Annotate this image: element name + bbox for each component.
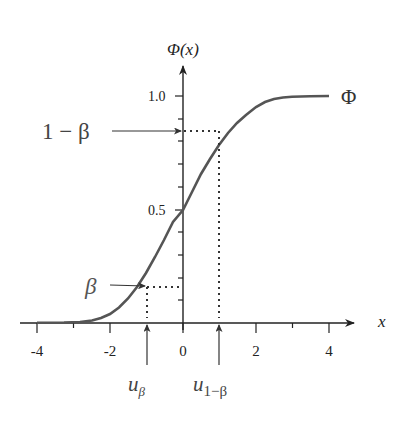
x-tick-m4: -4: [31, 343, 44, 359]
x-tick-m2: -2: [104, 343, 117, 359]
u-1mb-label: u1−β: [193, 372, 227, 399]
cdf-chart: Φ(x) x Φ 1 − β β 1.0 0.5 -4 -2 0 2 4 uβ …: [0, 0, 412, 427]
tick-label-1-0: 1.0: [148, 89, 166, 104]
y-axis-label: Φ(x): [167, 40, 199, 59]
x-tick-labels: -4 -2 0 2 4: [31, 343, 334, 359]
x-axis-label: x: [377, 312, 386, 331]
u-beta-label: uβ: [128, 372, 146, 399]
curve-label: Φ: [341, 85, 356, 109]
tick-label-0-5: 0.5: [148, 203, 166, 218]
x-ticks: [37, 323, 329, 333]
x-tick-2: 2: [252, 343, 260, 359]
x-tick-0: 0: [179, 343, 187, 359]
x-tick-4: 4: [325, 343, 333, 359]
beta-arrow: [110, 285, 145, 286]
beta-label: β: [84, 274, 97, 299]
y-ticks: [175, 96, 183, 300]
one-minus-beta-label: 1 − β: [42, 119, 90, 144]
